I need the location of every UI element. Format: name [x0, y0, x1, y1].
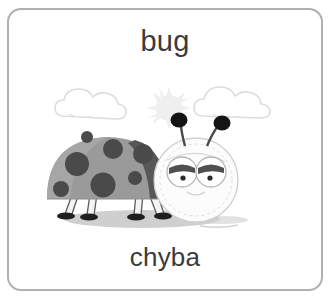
cloud-right-icon [194, 87, 270, 118]
word-translation: chyba [9, 241, 321, 273]
ladybug-illustration-svg [17, 68, 315, 243]
ladybug-head [154, 138, 238, 222]
flashcard: bug [7, 8, 323, 291]
cloud-left-icon [55, 89, 126, 119]
ladybug-illustration [17, 68, 315, 243]
word-english: bug [9, 24, 321, 58]
